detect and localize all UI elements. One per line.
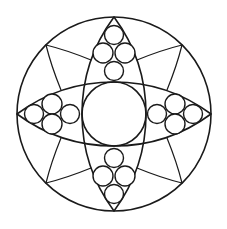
bead-clusters	[25, 26, 203, 204]
wedge-edge-to-horizontal-lens	[167, 45, 182, 90]
bead-circle	[93, 166, 113, 186]
bead-circle	[105, 62, 124, 81]
bead-circle	[61, 105, 80, 124]
bead-circle	[105, 149, 124, 168]
bead-circle	[42, 94, 62, 114]
bead-circle	[105, 185, 124, 204]
left-cluster	[25, 94, 80, 134]
bead-circle	[165, 114, 185, 134]
bead-circle	[25, 105, 44, 124]
bead-circle	[115, 166, 135, 186]
wedge-edge-to-horizontal-lens	[46, 45, 61, 90]
mandala-diagram	[0, 0, 227, 229]
bead-circle	[184, 105, 203, 124]
vertical-lens	[82, 17, 146, 211]
top-cluster	[93, 26, 135, 81]
bead-circle	[42, 114, 62, 134]
wedge-edge-to-horizontal-lens	[167, 138, 182, 183]
right-cluster	[148, 94, 203, 134]
bead-circle	[115, 43, 135, 63]
center-circle	[82, 82, 146, 146]
bottom-cluster	[93, 149, 135, 204]
wedge-edge-to-vertical-lens	[46, 168, 91, 183]
bead-circle	[165, 94, 185, 114]
wedge-edge-to-vertical-lens	[137, 45, 182, 60]
bead-circle	[148, 105, 167, 124]
bead-circle	[93, 43, 113, 63]
wedge-edge-to-horizontal-lens	[46, 138, 61, 183]
horizontal-lens	[17, 82, 211, 146]
wedge-edge-to-vertical-lens	[137, 168, 182, 183]
wedge-edge-to-vertical-lens	[46, 45, 91, 60]
bead-circle	[105, 26, 124, 45]
